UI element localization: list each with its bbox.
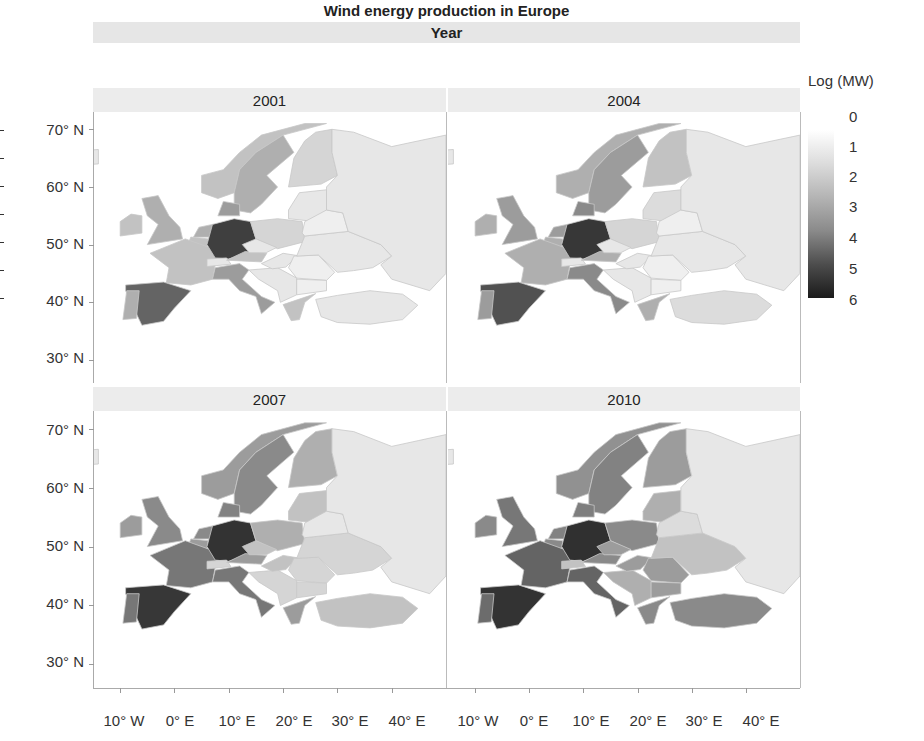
- map-panel-2007: [93, 411, 447, 688]
- country-uk: [497, 497, 538, 547]
- x-tick-label: 0° E: [520, 712, 549, 729]
- legend-tick-label: 6: [849, 291, 857, 308]
- y-tick-label: 30° N: [6, 349, 84, 366]
- y-tick-label: 60° N: [6, 479, 84, 496]
- axis-tick: [89, 245, 94, 246]
- axis-tick: [337, 688, 338, 693]
- y-tick-label: 60° N: [6, 178, 84, 195]
- country-portugal: [123, 291, 139, 320]
- country-uk: [497, 196, 538, 245]
- country-portugal: [478, 291, 494, 320]
- facet-label-2010: 2010: [448, 387, 800, 411]
- y-tick-label: 40° N: [6, 595, 84, 612]
- colorbar: [808, 130, 834, 298]
- map-panel-2001: [93, 112, 447, 383]
- legend-tick-label: 5: [849, 260, 857, 277]
- legend-tick-label: 3: [849, 198, 857, 215]
- country-switzerland: [562, 258, 586, 267]
- chart-title: Wind energy production in Europe: [93, 2, 800, 19]
- x-tick-label: 30° E: [332, 712, 369, 729]
- x-tick-label: 30° E: [686, 712, 723, 729]
- country-turkey: [670, 594, 772, 628]
- country-finland: [643, 429, 692, 488]
- map-panel-2004: [448, 112, 801, 383]
- x-tick-label: 10° E: [573, 712, 610, 729]
- country-finland: [289, 429, 338, 488]
- country-bulgaria: [297, 279, 327, 295]
- axis-tick: [229, 688, 230, 693]
- facet-label-2007: 2007: [93, 387, 446, 411]
- country-denmark: [573, 502, 595, 517]
- facet-header-year: Year: [93, 22, 800, 43]
- country-ireland: [475, 214, 497, 236]
- x-tick-label: 0° E: [166, 712, 195, 729]
- map-panel-2010: [448, 411, 801, 688]
- axis-tick: [475, 688, 476, 693]
- country-switzerland: [207, 258, 231, 267]
- axis-tick: [283, 688, 284, 693]
- axis-tick: [0, 270, 4, 271]
- x-tick-label: 10° W: [457, 712, 498, 729]
- x-tick-label: 20° E: [276, 712, 313, 729]
- country-uk: [142, 497, 183, 547]
- x-tick-label: 10° W: [103, 712, 144, 729]
- axis-tick: [89, 547, 94, 548]
- legend-title: Log (MW): [808, 72, 874, 89]
- x-tick-label: 20° E: [630, 712, 667, 729]
- country-ireland: [475, 515, 497, 537]
- axis-tick: [692, 688, 693, 693]
- axis-tick: [120, 688, 121, 693]
- axis-tick: [89, 302, 94, 303]
- country-bulgaria: [651, 582, 681, 598]
- legend-tick-label: 2: [849, 168, 857, 185]
- country-finland: [289, 129, 338, 187]
- axis-tick: [89, 187, 94, 188]
- y-tick-label: 30° N: [6, 653, 84, 670]
- country-ireland: [120, 515, 142, 537]
- country-finland: [643, 129, 692, 187]
- axis-tick: [746, 688, 747, 693]
- facet-label-2001: 2001: [93, 88, 446, 112]
- country-sweden: [589, 435, 649, 514]
- axis-tick: [89, 664, 94, 665]
- axis-tick: [89, 360, 94, 361]
- axis-tick: [0, 214, 4, 215]
- x-tick-label: 40° E: [389, 712, 426, 729]
- axis-tick: [89, 429, 94, 430]
- axis-tick: [583, 688, 584, 693]
- country-denmark: [573, 201, 595, 215]
- country-uk: [142, 196, 183, 245]
- x-axis-line: [93, 688, 800, 689]
- country-switzerland: [562, 560, 586, 569]
- country-turkey: [316, 594, 418, 628]
- axis-tick: [0, 298, 4, 299]
- country-switzerland: [207, 560, 231, 569]
- country-iceland: [448, 449, 453, 467]
- y-tick-label: 40° N: [6, 292, 84, 309]
- axis-tick: [0, 186, 4, 187]
- axis-tick: [638, 688, 639, 693]
- x-tick-label: 40° E: [743, 712, 780, 729]
- legend-tick-label: 0: [849, 108, 857, 125]
- y-tick-label: 70° N: [6, 421, 84, 438]
- country-turkey: [316, 291, 418, 325]
- axis-tick: [174, 688, 175, 693]
- axis-tick: [89, 488, 94, 489]
- legend-tick-label: 4: [849, 229, 857, 246]
- legend-tick-label: 1: [849, 138, 857, 155]
- y-axis-line-bottom: [93, 411, 94, 688]
- axis-tick: [0, 158, 4, 159]
- country-sweden: [234, 135, 294, 213]
- country-iceland: [448, 150, 453, 167]
- y-axis-line-top: [93, 112, 94, 383]
- country-denmark: [218, 502, 240, 517]
- country-ireland: [120, 214, 142, 236]
- axis-tick: [89, 605, 94, 606]
- country-sweden: [234, 435, 294, 514]
- country-sweden: [589, 135, 649, 213]
- facet-label-2004: 2004: [448, 88, 800, 112]
- country-portugal: [478, 594, 494, 624]
- x-tick-label: 10° E: [219, 712, 256, 729]
- y-tick-label: 70° N: [6, 121, 84, 138]
- axis-tick: [529, 688, 530, 693]
